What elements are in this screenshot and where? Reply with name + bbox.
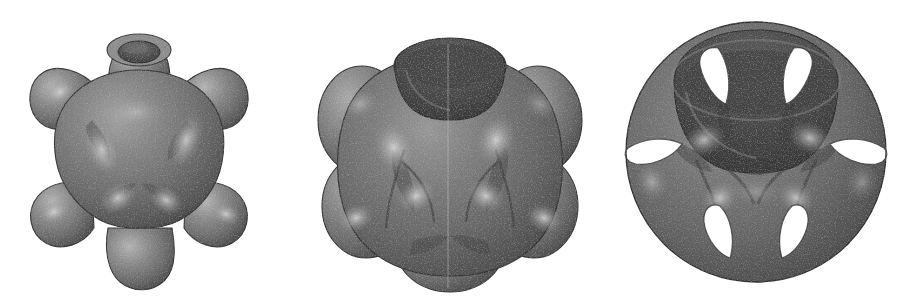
top-bore-a xyxy=(107,34,171,66)
shape-c-group xyxy=(625,22,887,282)
shape-b-group xyxy=(318,38,582,292)
shape-a-solid xyxy=(30,34,248,290)
panel-cube-blob-with-large-bore xyxy=(300,0,600,300)
shell-masked-c xyxy=(626,22,886,282)
panel-hollow-shell-with-six-openings xyxy=(600,0,913,300)
panel-sphere-with-six-cylindrical-bosses xyxy=(0,0,300,300)
top-bore-b xyxy=(394,38,506,120)
bore-opening-b xyxy=(403,44,497,88)
panel-c-canvas xyxy=(600,0,913,300)
boss-bottom xyxy=(107,228,175,290)
panel-a-canvas xyxy=(0,0,300,300)
figure-root xyxy=(0,0,913,300)
panel-b-canvas xyxy=(300,0,600,300)
shape-a-group xyxy=(30,34,248,290)
bore-inner-wall-a xyxy=(122,42,148,54)
